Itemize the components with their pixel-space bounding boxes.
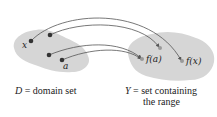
domain-caption: D = domain set: [15, 85, 76, 96]
label-a: a: [63, 61, 68, 71]
range-point-3: [158, 46, 162, 50]
function-mapping-diagram: x a f(a) f(x) D = domain set Y = set con…: [0, 0, 217, 117]
domain-point-3: [47, 53, 52, 58]
label-x: x: [22, 40, 27, 50]
label-fa: f(a): [145, 54, 162, 64]
label-fx: f(x): [185, 56, 202, 66]
domain-point-2: [48, 33, 53, 38]
codomain-caption: Y = set containing the range: [125, 85, 197, 107]
domain-symbol: D: [15, 85, 22, 96]
codomain-caption-line2: the range: [125, 96, 197, 107]
domain-caption-text: = domain set: [25, 85, 77, 96]
range-point-fa: [140, 57, 144, 61]
codomain-caption-line1: = set containing: [133, 85, 197, 96]
domain-point-x: [29, 39, 34, 44]
range-point-fx: [180, 59, 184, 63]
codomain-symbol: Y: [125, 85, 131, 96]
